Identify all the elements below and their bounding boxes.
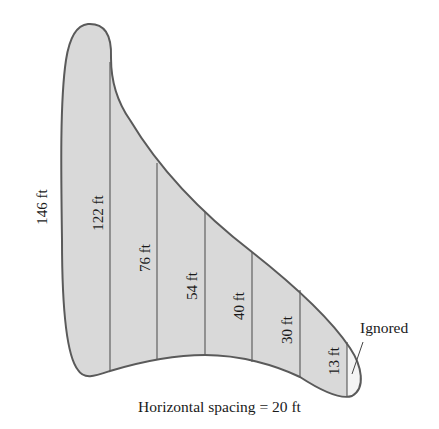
horizontal-spacing-caption: Horizontal spacing = 20 ft: [0, 398, 439, 416]
measurement-label-13: 13 ft: [326, 346, 342, 375]
measurement-label-30: 30 ft: [279, 315, 295, 344]
ignored-label: Ignored: [360, 319, 408, 336]
measurement-label-40: 40 ft: [231, 291, 247, 320]
measurement-label-76: 76 ft: [137, 243, 153, 272]
measurement-label-122: 122 ft: [90, 194, 106, 230]
measurement-label-146: 146 ft: [34, 188, 50, 224]
region-fill: [61, 24, 361, 397]
measurement-label-54: 54 ft: [184, 271, 200, 300]
irregular-region-diagram: 146 ft 122 ft 76 ft 54 ft 40 ft 30 ft 13…: [0, 0, 439, 429]
